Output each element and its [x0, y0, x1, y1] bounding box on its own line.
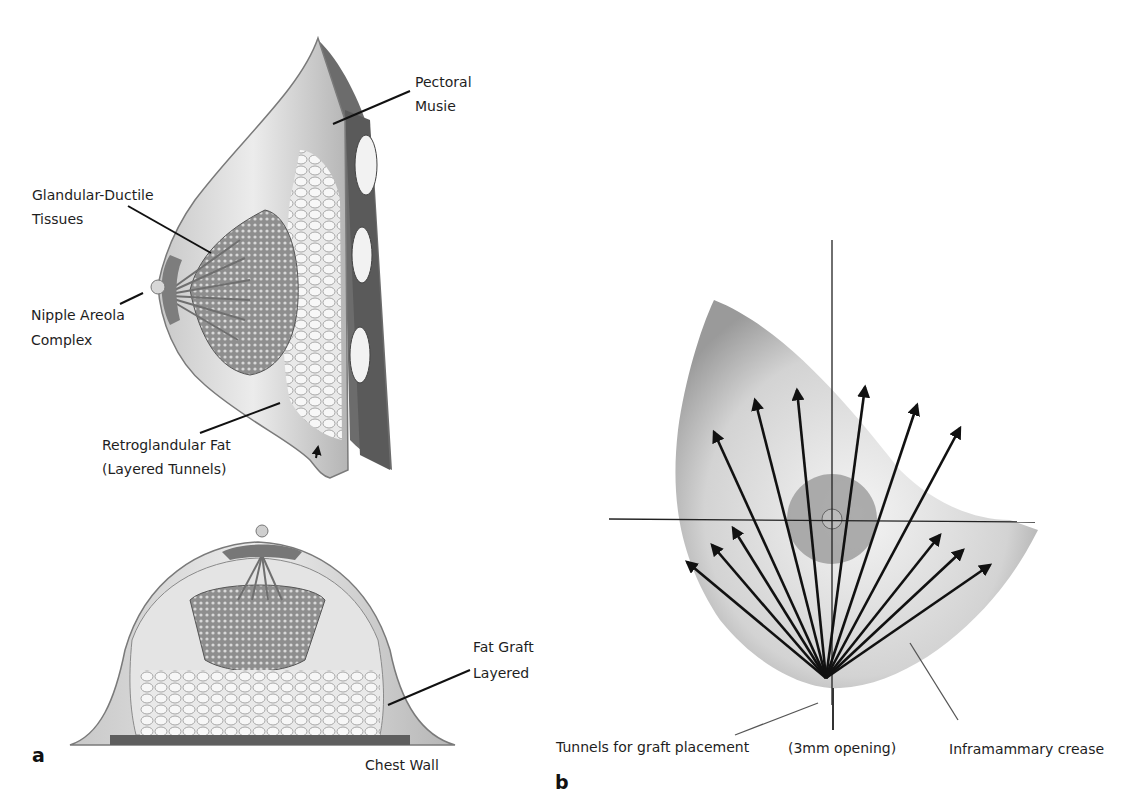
nipple [256, 525, 268, 537]
panel-letter-b: b [555, 771, 569, 793]
svg-text:Inframammary crease: Inframammary crease [949, 741, 1104, 757]
svg-text:Tissues: Tissues [31, 211, 83, 227]
svg-text:Layered: Layered [473, 665, 529, 681]
svg-text:Nipple Areola: Nipple Areola [31, 307, 125, 323]
svg-text:Fat Graft: Fat Graft [473, 639, 534, 655]
label-tunnels: Tunnels for graft placement [555, 703, 818, 755]
label-fat-graft-layered: Fat Graft Layered [388, 639, 534, 705]
label-nipple-areola-complex: Nipple Areola Complex [31, 293, 143, 348]
fat-graft-layer [140, 670, 380, 735]
label-inframammary-crease: Inframammary crease [910, 643, 1104, 757]
sagittal-breast-illustration [151, 38, 392, 478]
chest-wall [110, 735, 410, 745]
svg-text:Complex: Complex [31, 332, 92, 348]
label-chest-wall: Chest Wall [365, 757, 439, 773]
figure-canvas: Pectoral Musie Glandular-Ductile Tissues… [0, 0, 1135, 796]
axial-breast-illustration [70, 525, 455, 745]
svg-text:Pectoral: Pectoral [415, 74, 472, 90]
panel-letter-a: a [32, 744, 45, 766]
svg-text:Glandular-Ductile: Glandular-Ductile [32, 187, 154, 203]
rib-section [352, 227, 372, 283]
svg-text:(Layered Tunnels): (Layered Tunnels) [102, 461, 226, 477]
glandular-tissue [190, 585, 325, 671]
label-3mm-opening: (3mm opening) [788, 688, 896, 756]
rib-section [350, 327, 370, 383]
svg-text:Retroglandular Fat: Retroglandular Fat [102, 437, 231, 453]
svg-text:Tunnels for graft placement: Tunnels for graft placement [555, 739, 750, 755]
rib-section [355, 135, 377, 195]
svg-text:(3mm opening): (3mm opening) [788, 740, 896, 756]
svg-text:Musie: Musie [415, 98, 456, 114]
nipple [151, 280, 165, 294]
frontal-breast-illustration [675, 300, 1038, 688]
